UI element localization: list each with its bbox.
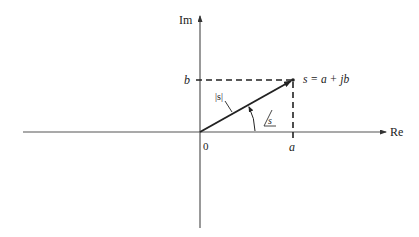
b-label: b (184, 73, 190, 87)
angle-label: s (268, 115, 272, 126)
imag-axis-label: Im (179, 13, 193, 27)
point-s-label: s = a + jb (303, 73, 349, 86)
a-label: a (289, 140, 295, 154)
origin-label: 0 (203, 140, 209, 152)
magnitude-label: |s| (215, 91, 223, 102)
complex-plane-diagram: Im Re 0 b a s = a + jb |s| s (0, 0, 419, 237)
point-s (291, 78, 295, 82)
magnitude-leader (225, 101, 232, 112)
angle-arc (249, 107, 255, 131)
vector-s (200, 81, 291, 132)
real-axis-label: Re (390, 125, 403, 139)
